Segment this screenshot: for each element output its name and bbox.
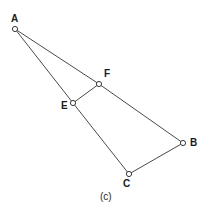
vertex-marker-f [96,81,101,86]
geometry-figure: AFEBC (c) [0,0,207,214]
vertex-marker-a [12,26,17,31]
vertex-markers-group [12,26,185,176]
vertex-label-c: C [123,179,130,189]
vertex-label-b: B [190,138,197,148]
vertex-label-a: A [11,14,18,24]
edge-c-e [73,103,129,174]
geometry-canvas [0,0,207,214]
edges-group [15,29,183,174]
edge-a-e [15,29,73,103]
figure-caption: (c) [100,191,112,202]
edge-a-f [15,29,99,84]
vertex-label-e: E [61,101,68,111]
edge-f-b [99,84,183,143]
vertex-marker-e [70,100,75,105]
edge-e-f [73,84,99,103]
vertex-marker-b [180,140,185,145]
edge-b-c [129,143,183,174]
vertex-label-f: F [104,69,110,79]
vertex-marker-c [126,171,131,176]
